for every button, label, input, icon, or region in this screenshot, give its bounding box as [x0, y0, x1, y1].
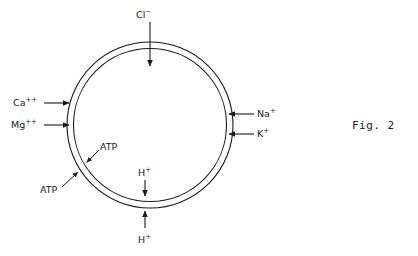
membrane-inner-ring	[74, 49, 227, 202]
proton-inner-label: H+	[138, 166, 151, 178]
atp-lower-arrow	[62, 172, 78, 187]
figure-container: Cl− Ca++ Mg++ Na+ K+ H+ H+ ATP ATP Fig. …	[0, 0, 418, 256]
atp-lower-label: ATP	[40, 184, 58, 195]
chloride-label: Cl−	[136, 8, 151, 20]
atp-upper-arrow	[87, 150, 100, 163]
magnesium-label: Mg++	[11, 118, 37, 130]
figure-caption: Fig. 2	[352, 119, 395, 132]
membrane-outer-ring	[67, 42, 233, 208]
atp-upper-label: ATP	[100, 141, 118, 152]
sodium-label: Na+	[257, 107, 276, 119]
proton-outer-label: H+	[138, 233, 151, 245]
calcium-label: Ca++	[13, 96, 37, 108]
potassium-label: K+	[257, 127, 269, 139]
